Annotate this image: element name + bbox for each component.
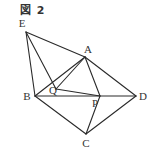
- segment-ea: [26, 32, 85, 57]
- point-label-q: Q: [49, 84, 57, 96]
- segment-bc: [35, 96, 86, 134]
- geometry-diagram: E A B Q P D C: [0, 0, 153, 154]
- edges-group: [26, 32, 136, 134]
- segment-aq: [56, 57, 85, 89]
- point-label-c: C: [82, 137, 89, 149]
- point-label-b: B: [23, 90, 30, 102]
- point-label-a: A: [84, 43, 92, 55]
- point-label-e: E: [19, 17, 26, 29]
- point-label-p: P: [92, 97, 98, 109]
- segment-qp: [56, 89, 100, 96]
- point-label-d: D: [139, 90, 147, 102]
